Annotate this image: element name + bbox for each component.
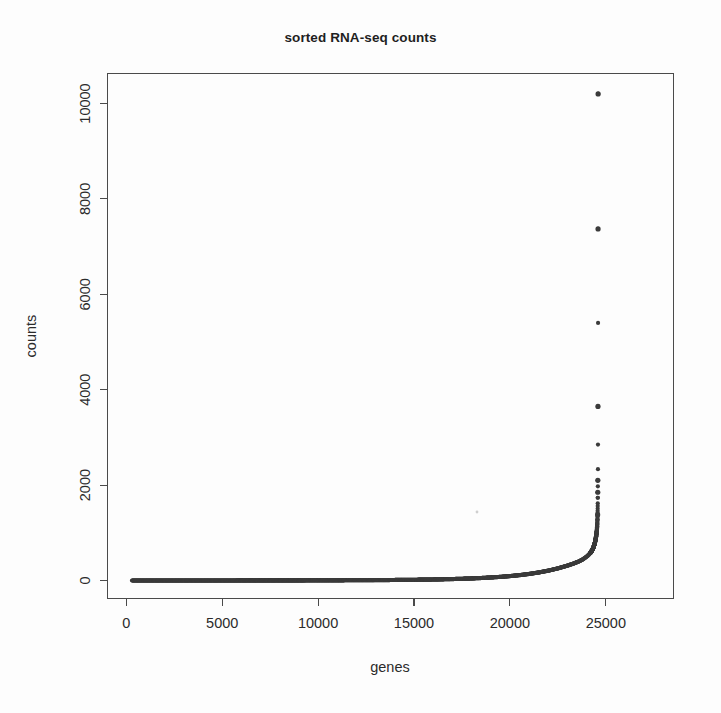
- x-tick-label: 15000: [394, 615, 434, 631]
- data-point-outlier: [595, 490, 600, 495]
- x-axis-title: genes: [370, 659, 410, 675]
- data-point-outlier: [595, 226, 600, 231]
- x-axis-tick-labels: 0 5000 10000 15000 20000 25000: [122, 615, 626, 631]
- x-tick-label: 25000: [586, 615, 626, 631]
- data-point: [596, 467, 600, 471]
- y-tick-label: 0: [77, 576, 93, 584]
- y-tick-label: 2000: [77, 469, 93, 501]
- chart-figure: sorted RNA-seq counts 0 2000 4000 6000 8…: [0, 0, 721, 713]
- data-point: [596, 321, 600, 325]
- data-point-outlier: [596, 91, 601, 96]
- x-tick-label: 0: [122, 615, 130, 631]
- data-point-outlier: [595, 404, 600, 409]
- data-point-outlier: [595, 478, 600, 483]
- y-axis-title: counts: [23, 315, 39, 358]
- plot-frame: [108, 74, 674, 599]
- data-point: [596, 442, 600, 446]
- y-tick-label: 6000: [77, 278, 93, 310]
- y-tick-label: 10000: [77, 83, 93, 123]
- data-points-layer: [130, 91, 601, 582]
- y-axis-tick-labels: 0 2000 4000 6000 8000 10000: [77, 83, 93, 584]
- scan-artifact-speck: [476, 511, 479, 514]
- y-tick-label: 4000: [77, 374, 93, 406]
- scatter-plot-canvas: 0 2000 4000 6000 8000 10000 0 5000 10000…: [0, 0, 721, 713]
- x-axis-ticks: [126, 599, 606, 607]
- data-point: [596, 501, 600, 505]
- data-point: [596, 496, 600, 500]
- data-point-outlier: [595, 512, 600, 517]
- x-tick-label: 20000: [490, 615, 530, 631]
- x-tick-label: 10000: [298, 615, 338, 631]
- y-axis-ticks: [100, 104, 108, 581]
- data-point: [596, 484, 600, 488]
- y-tick-label: 8000: [77, 183, 93, 215]
- x-tick-label: 5000: [206, 615, 238, 631]
